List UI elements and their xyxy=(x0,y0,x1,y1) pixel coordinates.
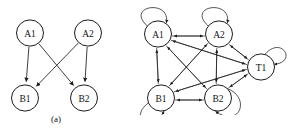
edge-A1-to-B2 xyxy=(39,44,74,86)
node-A2-label: A2 xyxy=(82,29,94,39)
node-B2[interactable]: B2 xyxy=(71,85,98,111)
node-A2[interactable]: A2 xyxy=(75,20,102,46)
edge-A2-to-B1 xyxy=(36,43,78,86)
edge-B1-to-A2 xyxy=(169,45,207,87)
node-B2[interactable]: B2 xyxy=(205,85,232,111)
edge-A2-to-B2 xyxy=(85,47,87,82)
graph-a-canvas: A1A2B1B2 xyxy=(0,0,140,112)
graph-b-nodes: A1A2T1B1B2 xyxy=(145,21,275,111)
node-T1[interactable]: T1 xyxy=(248,54,275,80)
panel-a-caption: (a) xyxy=(36,114,76,124)
edge-B1-to-A1 xyxy=(157,50,159,84)
edge-B2-to-A1 xyxy=(168,47,207,89)
node-B1-label: B1 xyxy=(19,94,30,104)
node-B1-label: B1 xyxy=(155,94,166,104)
edge-B2-to-T1 xyxy=(228,75,247,88)
edge-A1-to-B1 xyxy=(26,47,29,82)
node-B1[interactable]: B1 xyxy=(12,85,39,111)
figure-root: A1A2B1B2 (a) A1A2T1B1B2 (b) xyxy=(0,0,295,137)
node-A2-label: A2 xyxy=(213,30,225,40)
node-B1[interactable]: B1 xyxy=(148,85,175,111)
edge-T1-to-A2 xyxy=(230,46,248,60)
node-A1[interactable]: A1 xyxy=(17,20,44,46)
node-B2-label: B2 xyxy=(212,94,223,104)
graph-a-edges xyxy=(26,43,87,86)
panel-b: A1A2T1B1B2 (b) xyxy=(140,0,295,137)
node-T1-label: T1 xyxy=(256,63,267,73)
node-A2[interactable]: A2 xyxy=(206,21,233,47)
node-B2-label: B2 xyxy=(78,94,89,104)
panel-a: A1A2B1B2 (a) xyxy=(0,0,140,137)
edge-T1-to-A1 xyxy=(173,41,247,65)
graph-b-canvas: A1A2T1B1B2 xyxy=(140,0,295,115)
node-A1-label: A1 xyxy=(24,29,36,39)
node-A1[interactable]: A1 xyxy=(145,21,172,47)
node-A1-label: A1 xyxy=(152,30,164,40)
